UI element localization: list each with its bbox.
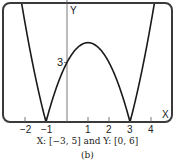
y-value-label: 3 <box>57 56 63 68</box>
window-frame <box>3 3 172 122</box>
figure-label: (b) <box>0 150 175 160</box>
window-caption: X: [−3, 5] and Y: [0, 6] <box>0 136 175 146</box>
y-axis-label: Y <box>70 5 77 16</box>
x-tick-labels: −2−11234 <box>20 124 154 135</box>
x-tick-label: 1 <box>85 124 91 135</box>
x-tick-label: 3 <box>127 124 133 135</box>
x-axis-label: X <box>162 109 169 120</box>
x-tick-label: −2 <box>20 124 32 135</box>
curve <box>4 0 172 122</box>
x-tick-label: 2 <box>106 124 112 135</box>
x-tick-label: −1 <box>41 124 53 135</box>
x-tick-label: 4 <box>148 124 154 135</box>
